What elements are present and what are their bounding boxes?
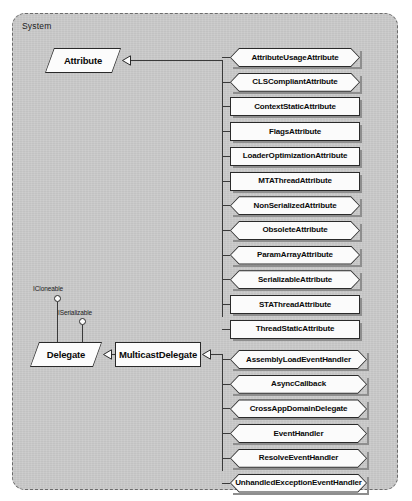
class-box-crossappdomaindelegate[interactable]: CrossAppDomainDelegate bbox=[230, 399, 367, 418]
class-box-asynccallback[interactable]: AsyncCallback bbox=[230, 375, 367, 394]
box-shadow bbox=[367, 452, 369, 470]
box-shadow bbox=[233, 289, 360, 291]
box-shadow bbox=[233, 418, 367, 420]
box-shadow bbox=[360, 51, 362, 69]
connector-iserializable-stem bbox=[82, 325, 83, 343]
box-shadow bbox=[233, 191, 360, 193]
class-box-contextstaticattribute[interactable]: ContextStaticAttribute bbox=[230, 97, 360, 116]
box-shadow bbox=[233, 394, 367, 396]
connector-stub bbox=[222, 82, 230, 83]
generalization-arrow-delegate bbox=[103, 349, 112, 360]
connector-attribute-spine bbox=[130, 60, 222, 61]
class-box-delegate-label: Delegate bbox=[30, 342, 102, 367]
box-shadow bbox=[367, 353, 369, 371]
class-box-assemblyloadeventhandler[interactable]: AssemblyLoadEventHandler bbox=[230, 350, 367, 369]
connector-stub bbox=[222, 384, 230, 385]
class-box-eventhandler[interactable]: EventHandler bbox=[230, 424, 367, 443]
box-shadow bbox=[360, 125, 362, 143]
connector-stub bbox=[222, 458, 230, 459]
connector-stub bbox=[222, 433, 230, 434]
class-box-label: UnhandledExceptionEventHandler bbox=[230, 474, 367, 493]
class-box-paramarrayattribute[interactable]: ParamArrayAttribute bbox=[230, 246, 360, 265]
box-shadow bbox=[233, 443, 367, 445]
diagram-canvas: System Attribute AttributeUsageAttribute… bbox=[0, 0, 412, 501]
box-shadow bbox=[367, 477, 369, 495]
box-shadow bbox=[360, 150, 362, 168]
class-box-label: NonSerializedAttribute bbox=[230, 196, 360, 215]
box-shadow bbox=[360, 175, 362, 193]
connector-stub bbox=[222, 230, 230, 231]
box-shadow bbox=[360, 273, 362, 291]
class-box-nonserializedattribute[interactable]: NonSerializedAttribute bbox=[230, 196, 360, 215]
connector-stub bbox=[222, 408, 230, 409]
class-box-label: MTAThreadAttribute bbox=[231, 173, 359, 190]
box-shadow bbox=[367, 378, 369, 396]
class-box-label: SerializableAttribute bbox=[230, 270, 360, 289]
box-shadow bbox=[233, 339, 360, 341]
class-box-attribute-label: Attribute bbox=[45, 48, 121, 73]
connector-stub bbox=[222, 106, 230, 107]
connector-stub bbox=[222, 279, 230, 280]
class-box-unhandledexceptioneventhandler[interactable]: UnhandledExceptionEventHandler bbox=[230, 474, 367, 493]
class-box-resolveeventhandler[interactable]: ResolveEventHandler bbox=[230, 449, 367, 468]
class-box-loaderoptimizationattribute[interactable]: LoaderOptimizationAttribute bbox=[230, 147, 360, 166]
class-box-flagsattribute[interactable]: FlagsAttribute bbox=[230, 122, 360, 141]
connector-stub bbox=[222, 156, 230, 157]
system-package-label: System bbox=[22, 21, 52, 31]
connector-stub bbox=[222, 181, 230, 182]
box-shadow bbox=[233, 265, 360, 267]
box-shadow bbox=[360, 76, 362, 94]
box-shadow bbox=[233, 240, 360, 242]
box-shadow bbox=[233, 314, 360, 316]
class-box-attribute[interactable]: Attribute bbox=[45, 48, 121, 73]
interface-lollipop-icloneable[interactable] bbox=[54, 295, 61, 302]
class-box-stathreadattribute[interactable]: STAThreadAttribute bbox=[230, 295, 360, 314]
connector-delegate-trunk bbox=[222, 354, 223, 471]
box-shadow bbox=[360, 100, 362, 118]
box-shadow bbox=[233, 468, 367, 470]
class-box-label: AsyncCallback bbox=[230, 375, 367, 394]
box-shadow bbox=[233, 116, 360, 118]
box-shadow bbox=[360, 298, 362, 316]
class-box-threadstaticattribute[interactable]: ThreadStaticAttribute bbox=[230, 320, 360, 339]
interface-lollipop-iserializable[interactable] bbox=[79, 318, 86, 325]
box-shadow bbox=[233, 141, 360, 143]
class-box-label: EventHandler bbox=[230, 424, 367, 443]
box-shadow bbox=[233, 67, 360, 69]
interface-label-iserializable: ISerializable bbox=[58, 309, 92, 316]
box-shadow bbox=[360, 249, 362, 267]
generalization-arrow-multicast-delegate bbox=[202, 349, 211, 360]
connector-stub bbox=[222, 483, 230, 484]
box-shadow bbox=[233, 215, 360, 217]
connector-stub bbox=[222, 329, 230, 330]
box-shadow bbox=[360, 199, 362, 217]
box-shadow bbox=[233, 92, 360, 94]
class-box-label: AssemblyLoadEventHandler bbox=[230, 350, 367, 369]
class-box-mtathreadattribute[interactable]: MTAThreadAttribute bbox=[230, 172, 360, 191]
class-box-serializableattribute[interactable]: SerializableAttribute bbox=[230, 270, 360, 289]
class-box-obsoleteattribute[interactable]: ObsoleteAttribute bbox=[230, 221, 360, 240]
generalization-arrow-attribute bbox=[122, 55, 131, 66]
connector-multicast-spine bbox=[210, 354, 222, 355]
class-box-label: FlagsAttribute bbox=[231, 123, 359, 140]
class-box-label: CrossAppDomainDelegate bbox=[230, 399, 367, 418]
class-box-label: ContextStaticAttribute bbox=[231, 98, 359, 115]
connector-stub bbox=[222, 359, 230, 360]
class-box-label: ResolveEventHandler bbox=[230, 449, 367, 468]
class-box-clscompliantattribute[interactable]: CLSCompliantAttribute bbox=[230, 73, 360, 92]
box-shadow bbox=[367, 427, 369, 445]
class-box-label: LoaderOptimizationAttribute bbox=[231, 148, 359, 165]
box-shadow bbox=[360, 224, 362, 242]
connector-stub bbox=[222, 304, 230, 305]
class-box-label: AttributeUsageAttribute bbox=[230, 48, 360, 67]
class-box-label: ObsoleteAttribute bbox=[230, 221, 360, 240]
box-shadow bbox=[367, 402, 369, 420]
class-box-delegate[interactable]: Delegate bbox=[30, 342, 102, 367]
connector-stub bbox=[222, 57, 230, 58]
class-box-label: STAThreadAttribute bbox=[231, 296, 359, 313]
class-box-multicast-delegate[interactable]: MulticastDelegate bbox=[115, 342, 201, 367]
box-shadow bbox=[233, 493, 367, 495]
class-box-label: CLSCompliantAttribute bbox=[230, 73, 360, 92]
class-box-attributeusageattribute[interactable]: AttributeUsageAttribute bbox=[230, 48, 360, 67]
box-shadow bbox=[360, 323, 362, 341]
